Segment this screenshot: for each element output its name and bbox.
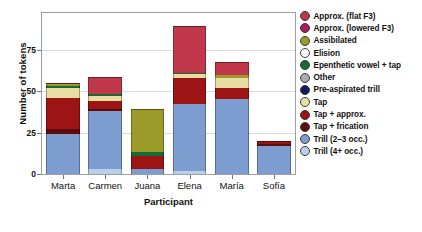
legend-item[interactable]: Other <box>300 71 422 83</box>
bar-segment[interactable] <box>215 99 249 174</box>
legend-swatch-icon <box>300 134 310 144</box>
legend-item-label: Approx. (lowered F3) <box>314 24 394 33</box>
bar-segment[interactable] <box>173 26 207 72</box>
x-tick-mark <box>274 175 275 179</box>
x-axis-title: Participant <box>41 196 296 207</box>
bar-group[interactable] <box>131 109 165 174</box>
gridline-50 <box>42 91 295 92</box>
chart-figure: Number of tokens 0255075 MartaCarmenJuan… <box>0 0 422 232</box>
legend-swatch-icon <box>300 146 310 156</box>
x-tick-mark <box>147 175 148 179</box>
bar-segment[interactable] <box>173 104 207 170</box>
legend-item-label: Pre-aspirated trill <box>314 85 380 94</box>
legend-item[interactable]: Pre-aspirated trill <box>300 84 422 96</box>
y-tick-label-25: 25 <box>8 128 36 138</box>
bar-segment[interactable] <box>88 111 122 169</box>
x-tick-mark <box>63 175 64 179</box>
bar-group[interactable] <box>257 141 291 174</box>
chart-legend: Approx. (flat F3)Approx. (lowered F3)Ass… <box>300 10 422 158</box>
legend-item-label: Approx. (flat F3) <box>314 12 376 21</box>
legend-item-label: Tap <box>314 98 328 107</box>
bar-segment[interactable] <box>215 62 249 75</box>
legend-swatch-icon <box>300 23 310 33</box>
y-tick-label-75: 75 <box>8 45 36 55</box>
bar-segment[interactable] <box>46 88 80 98</box>
bar-segment[interactable] <box>215 78 249 88</box>
legend-swatch-icon <box>300 122 310 132</box>
legend-item[interactable]: Epenthetic vowel + tap <box>300 59 422 71</box>
bar-segment[interactable] <box>215 88 249 100</box>
legend-swatch-icon <box>300 97 310 107</box>
y-axis-title: Number of tokens <box>17 24 28 144</box>
x-tick-mark <box>105 175 106 179</box>
legend-swatch-icon <box>300 36 310 46</box>
bar-segment[interactable] <box>46 134 80 174</box>
plot-area <box>41 12 296 175</box>
gridline-25 <box>42 133 295 134</box>
bar-segment[interactable] <box>173 78 207 105</box>
bar-segment[interactable] <box>173 171 207 174</box>
bar-segment[interactable] <box>88 169 122 174</box>
bar-segment[interactable] <box>88 77 122 94</box>
legend-item[interactable]: Approx. (flat F3) <box>300 10 422 22</box>
gridline-75 <box>42 50 295 51</box>
bar-segment[interactable] <box>131 169 165 174</box>
bar-segment[interactable] <box>88 101 122 109</box>
legend-item[interactable]: Trill (4+ occ.) <box>300 145 422 157</box>
legend-item-label: Elision <box>314 49 341 58</box>
legend-item[interactable]: Tap <box>300 96 422 108</box>
legend-item[interactable]: Assibilated <box>300 35 422 47</box>
y-tick-label-50: 50 <box>8 86 36 96</box>
legend-item-label: Tap + approx. <box>314 110 366 119</box>
x-tick-label-juana: Juana <box>134 180 160 191</box>
bar-group[interactable] <box>88 77 122 174</box>
legend-item-label: Epenthetic vowel + tap <box>314 61 401 70</box>
legend-swatch-icon <box>300 11 310 21</box>
x-tick-label-maría: María <box>220 180 244 191</box>
legend-swatch-icon <box>300 73 310 83</box>
legend-swatch-icon <box>300 48 310 58</box>
x-tick-mark <box>190 175 191 179</box>
legend-item-label: Trill (4+ occ.) <box>314 147 364 156</box>
bar-group[interactable] <box>46 83 80 174</box>
x-tick-label-marta: Marta <box>51 180 75 191</box>
legend-item[interactable]: Elision <box>300 47 422 59</box>
bar-segment[interactable] <box>257 146 291 174</box>
x-tick-mark <box>232 175 233 179</box>
bar-segment[interactable] <box>46 98 80 130</box>
x-tick-label-carmen: Carmen <box>88 180 122 191</box>
legend-swatch-icon <box>300 85 310 95</box>
legend-item-label: Tap + frication <box>314 122 369 131</box>
bar-segment[interactable] <box>131 156 165 169</box>
x-tick-label-elena: Elena <box>177 180 201 191</box>
plot-inner <box>42 13 295 174</box>
legend-item[interactable]: Approx. (lowered F3) <box>300 22 422 34</box>
legend-item[interactable]: Tap + frication <box>300 121 422 133</box>
legend-item-label: Trill (2–3 occ.) <box>314 135 368 144</box>
bar-group[interactable] <box>173 26 207 174</box>
legend-item[interactable]: Tap + approx. <box>300 108 422 120</box>
legend-item-label: Assibilated <box>314 36 357 45</box>
legend-item[interactable]: Trill (2–3 occ.) <box>300 133 422 145</box>
bar-segment[interactable] <box>131 109 165 152</box>
y-tick-label-0: 0 <box>8 169 36 179</box>
legend-item-label: Other <box>314 73 336 82</box>
bar-group[interactable] <box>215 62 249 174</box>
x-tick-label-sofía: Sofía <box>263 180 285 191</box>
legend-swatch-icon <box>300 110 310 120</box>
legend-swatch-icon <box>300 60 310 70</box>
